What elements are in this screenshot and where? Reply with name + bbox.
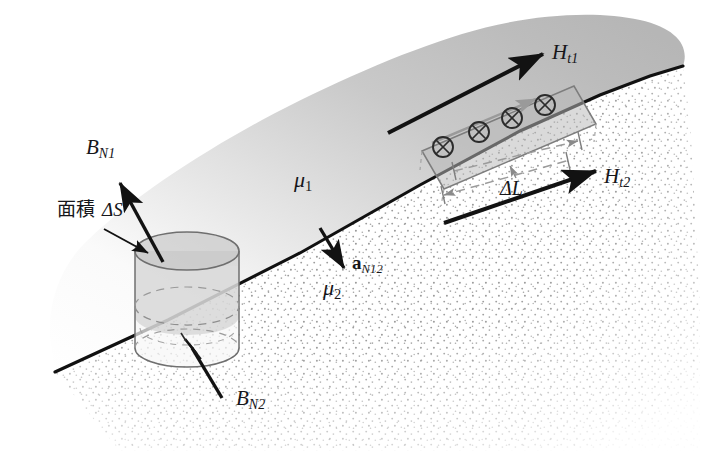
gaussian-pillbox bbox=[135, 232, 239, 367]
label-h-tangential-2: Ht2 bbox=[604, 166, 630, 187]
label-b-normal-1: BN1 bbox=[86, 137, 115, 158]
label-mu-2: μ2 bbox=[323, 277, 341, 299]
label-mu-1: μ1 bbox=[294, 169, 312, 191]
label-h-tangential-1: Ht1 bbox=[552, 42, 578, 63]
label-unit-normal-a-n12: aN12 bbox=[352, 253, 383, 272]
magnetic-boundary-conditions-figure: BN1 BN2 面積ΔS μ1 μ2 aN12 Ht1 Ht2 ΔL bbox=[0, 0, 727, 451]
figure-artwork bbox=[0, 0, 727, 451]
label-b-normal-2: BN2 bbox=[236, 388, 265, 409]
label-delta-l: ΔL bbox=[500, 178, 523, 198]
label-area-delta-s: 面積ΔS bbox=[57, 200, 123, 219]
